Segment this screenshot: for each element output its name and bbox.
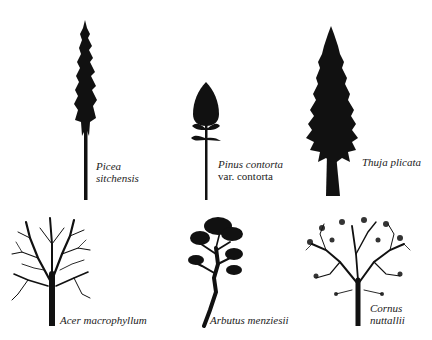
- arbutus-menziesii-silhouette: [186, 214, 250, 328]
- picea-sitchensis-label: Picea sitchensis: [96, 160, 139, 184]
- pinus-contorta-silhouette: [186, 80, 226, 200]
- arbutus-menziesii-label: Arbutus menziesii: [210, 314, 289, 326]
- pinus-contorta-label: Pinus contorta var. contorta: [218, 158, 283, 182]
- cornus-nuttallii-label: Cornus nuttallii: [370, 302, 405, 326]
- thuja-plicata-label: Thuja plicata: [362, 156, 421, 168]
- thuja-plicata-silhouette: [300, 24, 362, 196]
- acer-macrophyllum-label: Acer macrophyllum: [60, 314, 147, 326]
- acer-macrophyllum-silhouette: [8, 214, 94, 326]
- tree-silhouette-figure: Picea sitchensis Pinus contorta var. con…: [0, 0, 432, 340]
